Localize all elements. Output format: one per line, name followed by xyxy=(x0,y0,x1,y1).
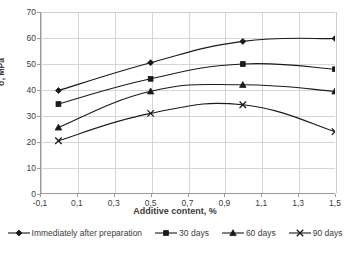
x-tick-label: 0,3 xyxy=(99,199,129,208)
x-tick-mark xyxy=(335,194,336,197)
data-point-square xyxy=(164,231,169,236)
y-tick-label: 40 xyxy=(14,86,36,95)
data-point-square xyxy=(240,62,245,67)
x-tick-mark xyxy=(224,194,225,197)
data-point-triangle xyxy=(55,124,61,130)
x-tick-mark xyxy=(40,194,41,197)
data-point-diamond xyxy=(16,230,22,236)
x-tick-label: 0,1 xyxy=(62,199,92,208)
legend-item[interactable]: 90 days xyxy=(289,228,343,238)
x-tick-mark xyxy=(114,194,115,197)
y-tick-mark xyxy=(37,12,40,13)
series-overlay xyxy=(40,12,335,194)
chart-legend: Immediately after preparation30 days60 d… xyxy=(0,228,350,238)
y-axis-title: σ, MPa xyxy=(0,58,6,86)
legend-marker-square-icon xyxy=(155,228,177,238)
legend-label: 60 days xyxy=(246,228,276,238)
series-line xyxy=(58,38,335,90)
y-tick-label: 20 xyxy=(14,138,36,147)
x-tick-mark xyxy=(261,194,262,197)
series-line xyxy=(58,84,335,127)
line-chart: σ, MPa Additive content, % Immediately a… xyxy=(0,0,350,253)
x-tick-mark xyxy=(298,194,299,197)
y-tick-label: 50 xyxy=(14,60,36,69)
x-tick-mark xyxy=(188,194,189,197)
x-tick-label: 1,3 xyxy=(283,199,313,208)
x-tick-mark xyxy=(77,194,78,197)
legend-marker-diamond-icon xyxy=(8,228,30,238)
data-point-cross xyxy=(55,137,61,143)
legend-label: Immediately after preparation xyxy=(32,228,143,238)
y-tick-mark xyxy=(37,38,40,39)
legend-marker-triangle-icon xyxy=(222,228,244,238)
y-tick-label: 30 xyxy=(14,112,36,121)
gridline-vertical xyxy=(336,12,337,193)
data-point-square xyxy=(56,102,61,107)
y-tick-mark xyxy=(37,90,40,91)
x-tick-mark xyxy=(151,194,152,197)
y-tick-mark xyxy=(37,116,40,117)
legend-item[interactable]: 60 days xyxy=(222,228,276,238)
y-tick-label: 70 xyxy=(14,8,36,17)
legend-label: 90 days xyxy=(313,228,343,238)
data-point-diamond xyxy=(148,60,154,66)
y-tick-label: 60 xyxy=(14,34,36,43)
x-tick-label: 0,5 xyxy=(136,199,166,208)
x-tick-label: 1,5 xyxy=(320,199,350,208)
legend-item[interactable]: Immediately after preparation xyxy=(8,228,143,238)
y-tick-mark xyxy=(37,142,40,143)
x-tick-label: 0,7 xyxy=(173,199,203,208)
series-line xyxy=(58,64,335,104)
legend-item[interactable]: 30 days xyxy=(155,228,209,238)
x-tick-label: 0,9 xyxy=(209,199,239,208)
data-point-square xyxy=(333,67,335,72)
data-point-square xyxy=(148,76,153,81)
legend-marker-cross-icon xyxy=(289,228,311,238)
data-point-diamond xyxy=(240,38,246,44)
data-point-diamond xyxy=(55,88,61,94)
y-tick-mark xyxy=(37,64,40,65)
legend-label: 30 days xyxy=(179,228,209,238)
data-point-diamond xyxy=(332,36,335,42)
x-tick-label: -0,1 xyxy=(25,199,55,208)
y-tick-mark xyxy=(37,168,40,169)
y-tick-label: 10 xyxy=(14,164,36,173)
x-tick-label: 1,1 xyxy=(246,199,276,208)
